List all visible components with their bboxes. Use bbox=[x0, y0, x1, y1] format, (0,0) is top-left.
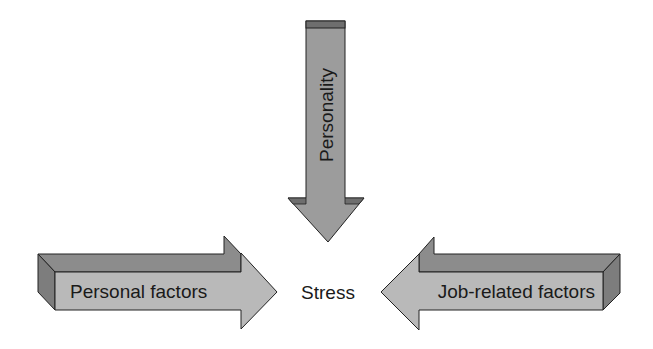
personal-factors-arrow: Personal factors bbox=[38, 236, 277, 329]
personality-label: Personality bbox=[316, 68, 337, 162]
job-related-factors-arrow: Job-related factors bbox=[381, 237, 620, 330]
stress-diagram: Personality Personal factors Stress Job-… bbox=[0, 0, 653, 349]
personal-factors-label: Personal factors bbox=[70, 281, 207, 302]
personality-arrow: Personality bbox=[288, 21, 364, 242]
job-related-factors-label: Job-related factors bbox=[438, 281, 595, 302]
stress-label: Stress bbox=[301, 282, 355, 303]
